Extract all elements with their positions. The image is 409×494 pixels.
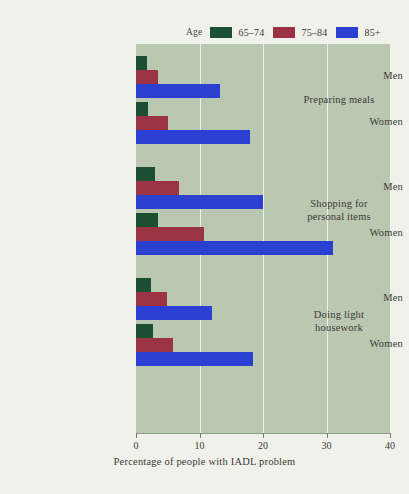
x-tick-label-0: 0 [134, 440, 139, 451]
bar-85+-men [136, 195, 263, 209]
legend-item-65-74: 65–74 [210, 27, 264, 38]
x-tick-mark-40 [390, 433, 391, 438]
y-group-label-line2: housework [277, 321, 401, 334]
y-sub-label-3-women: Women [277, 227, 409, 238]
y-group-label-line2: personal items [277, 210, 401, 223]
bar-7584-women [136, 338, 173, 352]
bar-85+-women [136, 352, 253, 366]
x-tick-mark-10 [200, 433, 201, 438]
bar-6574-women [136, 102, 148, 116]
x-axis-title: Percentage of people with IADL problem [0, 456, 409, 467]
y-group-label-line1: Shopping for [277, 197, 401, 210]
legend-item-85-plus: 85+ [336, 27, 380, 38]
legend-label-85-plus: 85+ [364, 27, 380, 38]
iadl-bar-chart: Age 65–74 75–84 85+ MenWomenMenWomenMenW… [0, 0, 409, 494]
bar-85+-women [136, 241, 333, 255]
y-group-label-1: Shopping forpersonal items [277, 197, 409, 223]
legend-swatch-65-74 [210, 27, 232, 38]
bar-7584-men [136, 292, 167, 306]
y-group-label-2: Doing lighthousework [277, 308, 409, 334]
y-sub-label-0-men: Men [277, 70, 409, 81]
chart-legend: Age 65–74 75–84 85+ [186, 24, 390, 40]
bar-6574-men [136, 278, 151, 292]
legend-swatch-85-plus [336, 27, 358, 38]
bar-6574-women [136, 324, 153, 338]
legend-label-75-84: 75–84 [301, 27, 327, 38]
y-group-label-line1: Doing light [277, 308, 401, 321]
x-tick-label-10: 10 [195, 440, 205, 451]
legend-swatch-75-84 [273, 27, 295, 38]
x-tick-mark-0 [136, 433, 137, 438]
y-group-label-line1: Preparing meals [277, 93, 401, 106]
bar-7584-women [136, 227, 204, 241]
y-sub-label-4-men: Men [277, 292, 409, 303]
bar-85+-women [136, 130, 250, 144]
legend-title: Age [186, 27, 202, 37]
y-sub-label-1-women: Women [277, 116, 409, 127]
bar-6574-women [136, 213, 158, 227]
x-tick-label-30: 30 [322, 440, 332, 451]
y-group-label-0: Preparing meals [277, 93, 409, 106]
legend-item-75-84: 75–84 [273, 27, 327, 38]
bar-7584-men [136, 181, 179, 195]
bar-7584-women [136, 116, 168, 130]
bar-6574-men [136, 56, 147, 70]
y-sub-label-5-women: Women [277, 338, 409, 349]
gridline-20 [263, 44, 264, 433]
x-tick-mark-30 [327, 433, 328, 438]
bar-85+-men [136, 306, 212, 320]
y-sub-label-2-men: Men [277, 181, 409, 192]
x-tick-label-40: 40 [385, 440, 395, 451]
bar-7584-men [136, 70, 158, 84]
bar-85+-men [136, 84, 220, 98]
legend-label-65-74: 65–74 [238, 27, 264, 38]
x-tick-mark-20 [263, 433, 264, 438]
x-tick-label-20: 20 [258, 440, 268, 451]
bar-6574-men [136, 167, 155, 181]
